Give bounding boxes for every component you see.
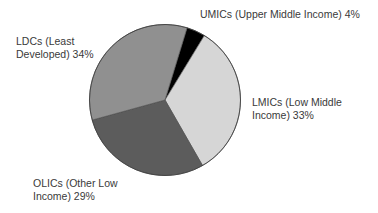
label-lmics: LMICs (Low Middle Income) 33% bbox=[252, 96, 342, 122]
label-ldcs-line1: LDCs (Least bbox=[16, 35, 94, 48]
label-olics-line1: OLICs (Other Low bbox=[33, 177, 118, 190]
label-ldcs-line2: Developed) 34% bbox=[16, 48, 94, 61]
label-olics: OLICs (Other Low Income) 29% bbox=[33, 177, 118, 203]
label-lmics-line1: LMICs (Low Middle bbox=[252, 96, 342, 109]
label-umics-text: UMICs (Upper Middle Income) 4% bbox=[200, 8, 360, 21]
label-lmics-line2: Income) 33% bbox=[252, 109, 342, 122]
label-ldcs: LDCs (Least Developed) 34% bbox=[16, 35, 94, 61]
label-olics-line2: Income) 29% bbox=[33, 190, 118, 203]
pie-slices bbox=[89, 25, 240, 176]
label-umics: UMICs (Upper Middle Income) 4% bbox=[200, 8, 360, 21]
